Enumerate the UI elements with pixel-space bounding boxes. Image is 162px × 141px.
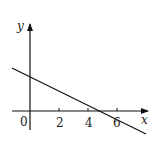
x-tick-label-2: 2: [56, 116, 64, 130]
origin-label: 0: [20, 115, 28, 129]
data-line: [12, 68, 146, 134]
x-axis-label: x: [141, 113, 148, 127]
line-graph: 0 2 4 6 x y: [0, 0, 162, 141]
x-tick-label-4: 4: [85, 116, 93, 130]
x-tick-label-6: 6: [113, 116, 121, 130]
y-axis-label: y: [16, 19, 24, 33]
